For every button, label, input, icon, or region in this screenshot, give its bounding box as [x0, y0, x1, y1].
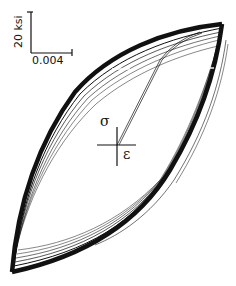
- scale-bar: [27, 12, 72, 56]
- hysteresis-plot: [0, 0, 236, 286]
- strain-axis-symbol: ε: [123, 147, 130, 161]
- crossing-gaps: [112, 68, 214, 69]
- strain-scale-label: 0.004: [32, 55, 64, 66]
- stress-axis-symbol: σ: [100, 114, 110, 128]
- stress-scale-label: 20 ksi: [13, 15, 24, 48]
